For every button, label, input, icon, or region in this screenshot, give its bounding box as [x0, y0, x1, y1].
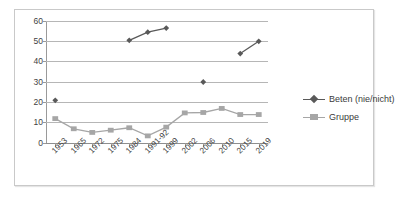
series-line: [240, 41, 259, 53]
data-point-diamond: [52, 97, 58, 103]
legend-marker-diamond-icon: [303, 94, 325, 104]
y-tick-label: 10: [19, 118, 43, 127]
y-tick-label: 60: [19, 17, 43, 26]
data-point-square: [182, 111, 188, 116]
data-point-diamond: [200, 79, 206, 85]
y-axis-labels: 0102030405060: [15, 21, 43, 143]
series-line: [55, 108, 259, 135]
data-point-diamond: [163, 25, 169, 31]
data-point-square: [237, 112, 243, 117]
legend-item-beten: Beten (nie/nicht): [303, 90, 399, 108]
y-tick-label: 30: [19, 78, 43, 87]
data-point-diamond: [145, 29, 151, 35]
plot-area: [46, 21, 268, 143]
data-point-square: [200, 110, 206, 115]
x-axis-labels: 195319651972197519841991-921999200220062…: [15, 147, 315, 189]
chart-figure: 0102030405060 195319651972197519841991-9…: [14, 9, 374, 186]
data-point-square: [256, 112, 262, 117]
data-point-square: [52, 116, 58, 121]
data-point-square: [145, 133, 151, 138]
y-tick-label: 20: [19, 98, 43, 107]
y-tick-label: 0: [19, 139, 43, 148]
data-point-diamond: [126, 37, 132, 43]
legend-marker-square-icon: [303, 112, 325, 122]
y-tick-label: 50: [19, 37, 43, 46]
legend-item-gruppe: Gruppe: [303, 108, 399, 126]
legend-label-gruppe: Gruppe: [329, 112, 359, 122]
series-beten-nie-nicht: [52, 25, 261, 103]
series-layer: [46, 21, 268, 143]
data-point-square: [126, 125, 132, 130]
data-point-square: [108, 128, 114, 133]
chart-legend: Beten (nie/nicht) Gruppe: [303, 90, 399, 126]
data-point-square: [71, 126, 77, 131]
data-point-square: [219, 106, 225, 111]
y-tick-label: 40: [19, 57, 43, 66]
data-point-square: [89, 130, 95, 135]
legend-label-beten: Beten (nie/nicht): [329, 94, 395, 104]
